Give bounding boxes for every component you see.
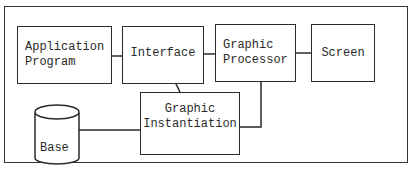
node-graphic-processor: Graphic Processor [215, 24, 296, 82]
node-screen: Screen [311, 24, 375, 82]
node-label: Interface [131, 46, 196, 61]
node-label: Graphic Instantiation [143, 102, 237, 132]
node-interface: Interface [122, 26, 204, 84]
node-label: Application Program [25, 40, 104, 70]
node-application-program: Application Program [17, 26, 112, 84]
database-cylinder-icon [35, 105, 79, 164]
edge-processor-instantiation [240, 82, 261, 127]
node-label: Screen [321, 46, 364, 61]
node-label: Graphic Processor [223, 38, 288, 68]
node-graphic-instantiation: Graphic Instantiation [140, 92, 240, 155]
node-base: Base [40, 141, 69, 155]
edge-interface-instantiation [176, 84, 180, 92]
